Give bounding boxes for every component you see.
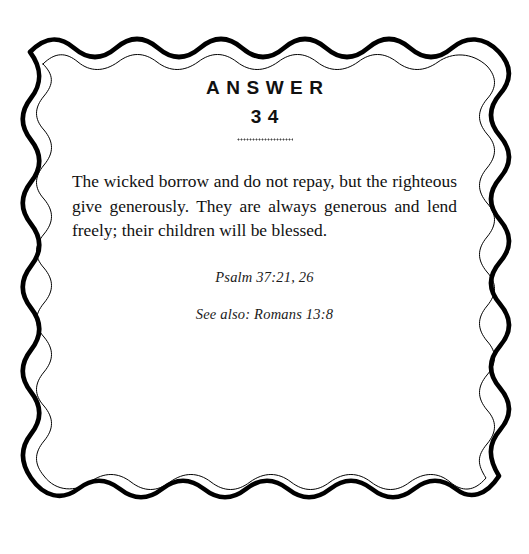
citation-primary: Psalm 37:21, 26 — [60, 269, 469, 286]
answer-card-page: ANSWER 34 The wicked borrow and do not r… — [0, 0, 529, 554]
citation-secondary: See also: Romans 13:8 — [60, 306, 469, 323]
answer-label: ANSWER — [60, 78, 469, 97]
answer-heading-block: ANSWER 34 — [60, 78, 469, 141]
card-content: ANSWER 34 The wicked borrow and do not r… — [60, 78, 469, 478]
verse-text: The wicked borrow and do not repay, but … — [60, 169, 457, 243]
answer-number: 34 — [60, 107, 469, 126]
dotted-rule-icon — [237, 138, 293, 141]
